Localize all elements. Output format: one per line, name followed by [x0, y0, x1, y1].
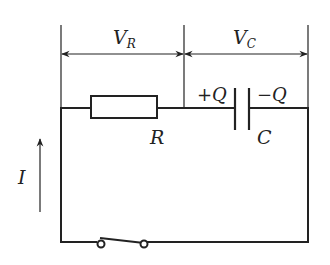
capacitor — [235, 88, 249, 130]
voltage-resistor-label: VR — [113, 26, 136, 51]
capacitor-label: C — [257, 126, 272, 148]
switch — [98, 238, 148, 248]
resistor-label: R — [149, 126, 164, 148]
positive-charge-label: +Q — [197, 84, 227, 105]
negative-charge-label: −Q — [257, 84, 287, 105]
voltage-capacitor-label: VC — [233, 26, 256, 51]
resistor — [91, 96, 157, 118]
current-label: I — [17, 166, 26, 188]
rc-circuit-diagram: VR VC R C +Q −Q I — [0, 0, 330, 265]
